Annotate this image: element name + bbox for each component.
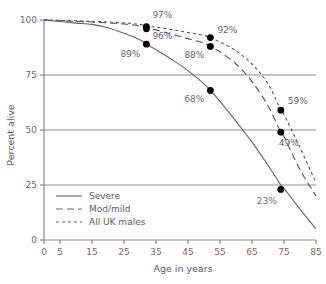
svg-text:75: 75 [26,70,37,80]
svg-text:75: 75 [278,247,289,257]
svg-text:All UK males: All UK males [89,217,146,227]
svg-text:5: 5 [57,247,63,257]
svg-text:85: 85 [310,247,321,257]
svg-text:97%: 97% [152,10,172,20]
x-axis-title: Age in years [153,263,212,274]
chart-container: 0255075100 051525354555657585 97%96%89%9… [0,0,326,284]
svg-text:0: 0 [41,247,47,257]
svg-text:68%: 68% [184,94,204,104]
svg-text:55: 55 [214,247,225,257]
svg-text:Mod/mild: Mod/mild [89,204,131,214]
svg-text:Severe: Severe [89,191,121,201]
x-axis: 051525354555657585 [41,240,322,257]
svg-text:65: 65 [246,247,257,257]
gridlines [44,75,316,185]
svg-text:88%: 88% [184,50,204,60]
svg-text:0: 0 [31,235,37,245]
y-axis-title: Percent alive [5,104,16,165]
survival-curve-chart: 0255075100 051525354555657585 97%96%89%9… [0,0,326,284]
svg-text:96%: 96% [152,31,172,41]
svg-text:49%: 49% [279,138,299,148]
svg-text:45: 45 [182,247,193,257]
svg-text:89%: 89% [120,49,140,59]
svg-text:59%: 59% [288,96,308,106]
y-axis: 0255075100 [20,15,44,245]
svg-text:25: 25 [26,180,37,190]
data-markers [143,23,284,193]
svg-text:15: 15 [86,247,97,257]
svg-text:25: 25 [118,247,129,257]
svg-text:50: 50 [26,125,38,135]
svg-text:92%: 92% [217,25,237,35]
svg-text:100: 100 [20,15,37,25]
legend: SevereMod/mildAll UK males [56,191,146,227]
svg-text:35: 35 [150,247,161,257]
svg-text:23%: 23% [257,196,277,206]
